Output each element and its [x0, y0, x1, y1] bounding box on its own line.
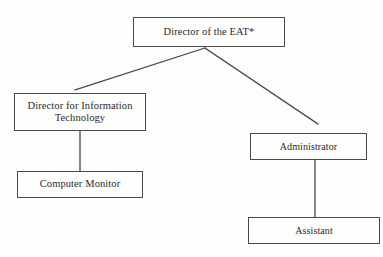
connector-root-to-information-technology	[75, 48, 205, 90]
org-node-label: Director of the EAT*	[160, 26, 259, 38]
org-node-label: Computer Monitor	[36, 178, 125, 190]
connector-root-to-administrator	[205, 48, 318, 124]
org-chart-diagram: Director of the EAT* Director for Inform…	[0, 0, 383, 257]
org-node-administrator: Administrator	[250, 133, 367, 160]
org-node-label: Administrator	[276, 141, 341, 153]
org-node-director-of-the-eat: Director of the EAT*	[133, 17, 285, 47]
org-node-label: Assistant	[291, 225, 337, 237]
org-node-assistant: Assistant	[248, 217, 380, 244]
org-node-label: Director for Information Technology	[23, 100, 136, 125]
org-node-director-for-information-technology: Director for Information Technology	[14, 93, 146, 131]
org-node-computer-monitor: Computer Monitor	[17, 171, 143, 198]
